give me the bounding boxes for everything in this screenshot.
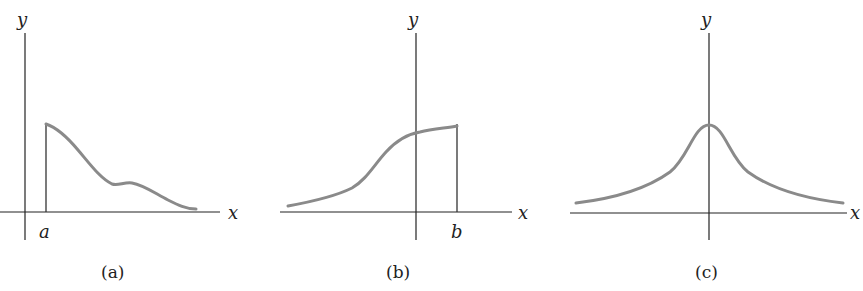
y-axis-label: y [700,9,712,30]
panel-c: y x (c) [570,9,860,282]
y-axis-label: y [16,9,28,30]
panel-a: y x a (a) [0,9,238,282]
curve-a [46,124,196,209]
caption-a: (a) [101,262,124,282]
figure: y x a (a) y x b (b) y x (c) [0,0,863,291]
x-axis-label: x [518,202,528,223]
curve-b [288,126,457,206]
caption-b: (b) [386,262,410,282]
x-axis-label: x [850,202,860,223]
marker-label-a: a [39,221,50,242]
panel-b: y x b (b) [280,9,528,282]
caption-c: (c) [695,262,718,282]
x-axis-label: x [228,202,238,223]
y-axis-label: y [407,9,419,30]
marker-label-b: b [451,221,463,242]
